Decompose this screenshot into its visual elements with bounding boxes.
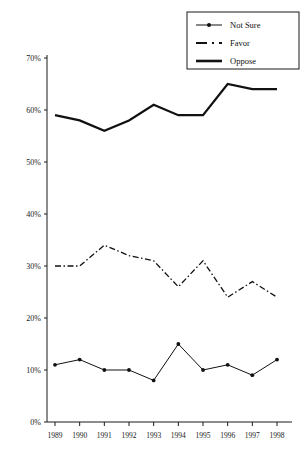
x-axis: 1989199019911992199319941995199619971998 [47,422,292,440]
x-tick-label: 1991 [97,431,112,440]
data-point-marker [250,373,254,377]
chart-legend: Not SureFavorOppose [187,12,299,69]
x-tick-label: 1997 [245,431,260,440]
x-tick-label: 1992 [122,431,137,440]
data-point-marker [53,363,57,367]
data-point-marker [78,358,82,362]
data-point-marker [176,342,180,346]
x-tick-label: 1989 [48,431,63,440]
x-axis-ticks [55,422,277,426]
y-tick-label: 10% [26,366,41,375]
series-favor [55,245,277,297]
series-line [55,245,277,297]
x-tick-label: 1996 [220,431,235,440]
x-tick-label: 1995 [196,431,211,440]
y-tick-label: 60% [26,106,41,115]
y-axis: 0%10%20%30%40%50%60%70% [26,54,47,427]
line-chart: 0%10%20%30%40%50%60%70% 1989199019911992… [0,0,306,465]
x-tick-label: 1990 [72,431,87,440]
data-point-marker [152,379,156,383]
data-point-marker [102,368,106,372]
y-tick-label: 40% [26,210,41,219]
series-oppose [55,84,277,131]
plot-area [53,84,279,382]
legend-label: Favor [230,38,250,48]
y-axis-tick-labels: 0%10%20%30%40%50%60%70% [26,54,41,427]
chart-canvas: 0%10%20%30%40%50%60%70% 1989199019911992… [0,0,306,465]
legend-swatch-dot [207,23,211,27]
data-point-marker [201,368,205,372]
legend-label: Not Sure [230,20,261,30]
series-line [55,344,277,380]
y-tick-label: 0% [30,418,41,427]
x-tick-label: 1998 [270,431,285,440]
y-tick-label: 50% [26,158,41,167]
series-line [55,84,277,131]
x-tick-label: 1994 [171,431,186,440]
y-tick-label: 70% [26,54,41,63]
data-point-marker [127,368,131,372]
y-tick-label: 30% [26,262,41,271]
data-point-marker [275,358,279,362]
x-axis-tick-labels: 1989199019911992199319941995199619971998 [48,431,285,440]
x-tick-label: 1993 [146,431,161,440]
legend-label: Oppose [230,56,256,66]
y-tick-label: 20% [26,314,41,323]
series-not-sure [53,342,279,382]
data-point-marker [226,363,230,367]
